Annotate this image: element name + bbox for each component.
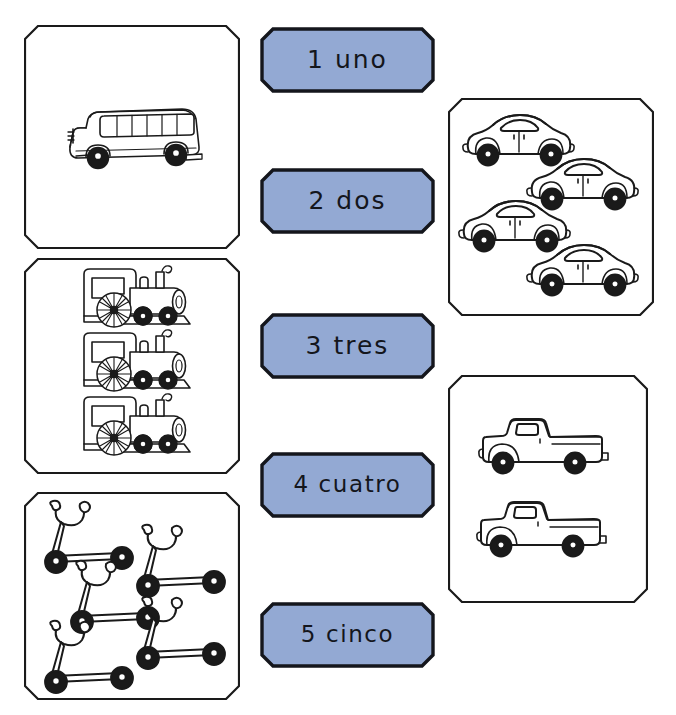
number-label-2[interactable]: 2 dos [260,168,435,234]
picture-panel-trucks[interactable] [448,375,648,603]
trucks-art-group [448,375,648,603]
scooters-art-group [24,492,240,700]
bus-art-group [24,25,240,249]
picture-panel-cars[interactable] [448,98,654,316]
picture-panel-scooters[interactable] [24,492,240,700]
scooter-icon-5 [45,621,133,693]
train-icon-3 [84,394,190,455]
cars-art-group [448,98,654,316]
number-label-text: 2 dos [260,168,435,234]
car-icon-2 [527,159,638,210]
picture-panel-bus[interactable] [24,25,240,249]
car-icon-1 [463,115,574,166]
number-label-5[interactable]: 5 cinco [260,602,435,668]
train-icon-1 [84,266,190,327]
number-label-text: 4 cuatro [260,452,435,518]
number-label-1[interactable]: 1 uno [260,27,435,93]
scooter-icon-1 [45,501,133,573]
number-label-text: 3 tres [260,313,435,379]
number-label-text: 1 uno [260,27,435,93]
scooter-icon-2 [137,525,225,597]
worksheet-sheet: 1 uno 2 dos 3 tres 4 cuatro 5 cinco [0,0,676,715]
number-label-4[interactable]: 4 cuatro [260,452,435,518]
truck-icon-2 [477,502,606,557]
truck-icon-1 [479,419,608,474]
train-icon-2 [84,330,190,391]
car-icon-4 [527,245,638,296]
number-label-3[interactable]: 3 tres [260,313,435,379]
picture-panel-trains[interactable] [24,258,240,474]
trains-art-group [24,258,240,474]
number-label-text: 5 cinco [260,602,435,668]
